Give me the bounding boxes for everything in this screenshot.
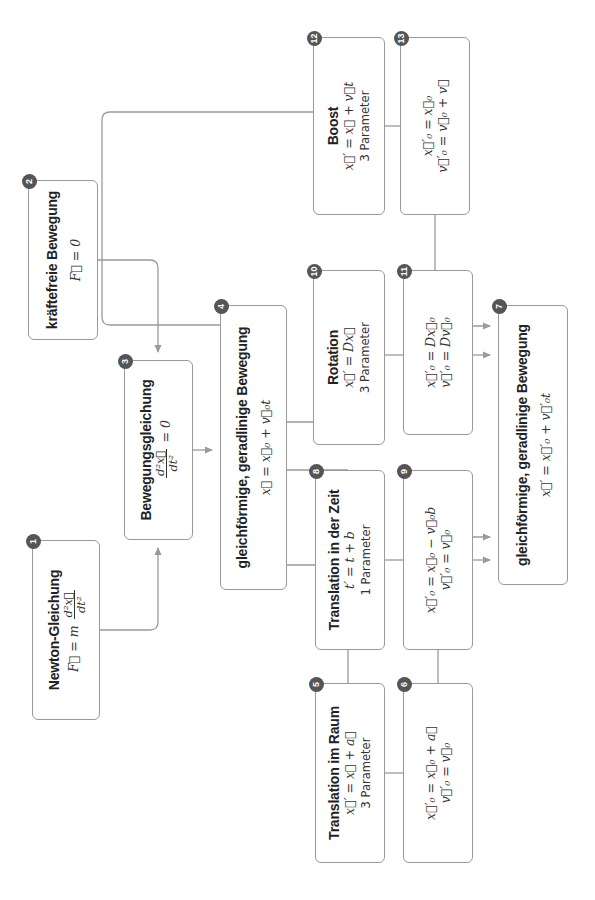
node-formula-line-1: x⃗′₀ = x⃗₀ − v⃗₀b <box>423 507 438 613</box>
node-title: Boost <box>325 107 341 146</box>
node-formula: x⃗′ = Dx⃗ <box>341 327 356 387</box>
node-formula: F⃗ = m d²x⃗dt² <box>62 588 87 672</box>
node-time-translation-result: 9 x⃗′₀ = x⃗₀ − v⃗₀b v⃗′₀ = v⃗₀ <box>403 470 473 650</box>
node-number-badge: 1 <box>26 534 41 549</box>
node-number-badge: 13 <box>394 31 409 46</box>
node-formula-line-2: v⃗′₀ = v⃗₀ <box>438 743 453 803</box>
node-number-badge: 2 <box>22 174 37 189</box>
node-uniform-linear-motion: 4 gleichförmige, geradlinige Bewegung x⃗… <box>220 305 287 590</box>
node-formula: d²x⃗dt² = 0 <box>154 420 179 480</box>
node-number-badge: 4 <box>214 299 229 314</box>
node-parameter-count: 3 Parameter <box>359 738 374 809</box>
node-formula-line-2: v⃗′₀ = Dv⃗₀ <box>438 317 453 387</box>
node-number-badge: 12 <box>307 31 322 46</box>
node-number-badge: 6 <box>397 677 412 692</box>
node-formula-line-1: x⃗′₀ = Dx⃗₀ <box>423 317 438 387</box>
node-formula: x⃗′ = x⃗ + a⃗ <box>342 731 357 815</box>
node-title: Rotation <box>325 330 341 385</box>
node-force-free-motion: 2 kräftefreie Bewegung F⃗ = 0 <box>28 180 98 340</box>
node-number-badge: 7 <box>492 299 507 314</box>
fraction-numerator: d²x⃗ <box>62 590 75 619</box>
formula-rhs: = 0 <box>158 420 173 442</box>
formula-lhs: F⃗ = m <box>66 625 81 671</box>
node-number-badge: 11 <box>397 264 412 279</box>
node-formula: t′ = t + b <box>342 531 357 589</box>
node-formula-line-2: v⃗′₀ = v⃗₀ + v⃗ <box>435 79 450 172</box>
node-formula-line-1: x⃗′₀ = x⃗₀ <box>420 96 435 156</box>
node-number-badge: 8 <box>309 464 324 479</box>
node-number-badge: 3 <box>118 354 133 369</box>
node-title: Translation in der Zeit <box>326 490 342 631</box>
edge-4-12 <box>102 112 313 325</box>
node-title: kräftefreie Bewegung <box>44 191 60 329</box>
node-formula: x⃗′ = x⃗ + v⃗t <box>341 82 356 170</box>
fraction-denominator: dt² <box>167 455 179 472</box>
fraction: d²x⃗dt² <box>62 590 87 619</box>
node-rotation-result: 11 x⃗′₀ = Dx⃗₀ v⃗′₀ = Dv⃗₀ <box>403 270 473 435</box>
node-boost: 12 Boost x⃗′ = x⃗ + v⃗t 3 Parameter <box>313 37 385 215</box>
node-formula: F⃗ = 0 <box>68 239 83 282</box>
node-title: gleichförmige, geradlinige Bewegung <box>514 324 530 566</box>
node-transformed-uniform-motion: 7 gleichförmige, geradlinige Bewegung x⃗… <box>498 305 568 585</box>
node-title: gleichförmige, geradlinige Bewegung <box>234 327 250 569</box>
node-parameter-count: 3 Parameter <box>358 91 373 162</box>
edge-2-3 <box>98 260 158 352</box>
node-parameter-count: 1 Parameter <box>359 525 374 596</box>
node-space-translation: 5 Translation im Raum x⃗′ = x⃗ + a⃗ 3 Pa… <box>315 683 385 863</box>
node-formula: x⃗ = x⃗₀ + v⃗₀t <box>258 400 273 496</box>
node-boost-result: 13 x⃗′₀ = x⃗₀ v⃗′₀ = v⃗₀ + v⃗ <box>400 37 470 215</box>
node-number-badge: 9 <box>397 464 412 479</box>
node-space-translation-result: 6 x⃗′₀ = x⃗₀ + a⃗ v⃗′₀ = v⃗₀ <box>403 683 473 863</box>
node-formula-line-2: v⃗′₀ = v⃗₀ <box>438 530 453 590</box>
diagram-canvas: 1 Newton-Gleichung F⃗ = m d²x⃗dt² 2 kräf… <box>0 0 595 900</box>
node-formula: x⃗′ = x⃗′₀ + v⃗′₀t <box>538 393 553 497</box>
node-title: Bewegungsgleichung <box>138 379 154 520</box>
node-time-translation: 8 Translation in der Zeit t′ = t + b 1 P… <box>315 470 385 650</box>
node-rotation: 10 Rotation x⃗′ = Dx⃗ 3 Parameter <box>313 270 385 445</box>
node-newton-equation: 1 Newton-Gleichung F⃗ = m d²x⃗dt² <box>32 540 100 720</box>
node-title: Translation im Raum <box>326 706 342 840</box>
edge-1-3 <box>100 548 158 630</box>
fraction: d²x⃗dt² <box>154 449 179 478</box>
node-number-badge: 5 <box>309 677 324 692</box>
node-title: Newton-Gleichung <box>46 570 62 690</box>
node-parameter-count: 3 Parameter <box>358 322 373 393</box>
node-equation-of-motion: 3 Bewegungsgleichung d²x⃗dt² = 0 <box>124 360 193 540</box>
node-formula-line-1: x⃗′₀ = x⃗₀ + a⃗ <box>423 726 438 820</box>
fraction-denominator: dt² <box>75 597 87 614</box>
node-number-badge: 10 <box>307 264 322 279</box>
